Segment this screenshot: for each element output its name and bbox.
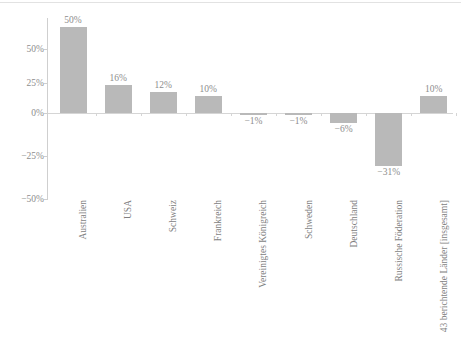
- y-tick-label: −50%: [8, 194, 44, 204]
- x-tick-mark: [456, 113, 457, 116]
- bar[interactable]: [240, 113, 267, 115]
- y-tick-mark: [44, 113, 48, 114]
- bar-value-label: 10%: [404, 84, 461, 95]
- bar[interactable]: [150, 92, 177, 113]
- category-label-text: Deutschland: [349, 200, 360, 248]
- y-tick-label: 50%: [8, 44, 44, 54]
- y-tick-label: 25%: [8, 78, 44, 88]
- x-tick-mark: [321, 113, 322, 116]
- category-label-text: Frankreich: [213, 200, 224, 241]
- y-tick-mark: [44, 83, 48, 84]
- x-tick-mark: [186, 113, 187, 116]
- x-tick-mark: [276, 113, 277, 116]
- category-label-text: Schweiz: [168, 200, 179, 232]
- category-label: Vereinigtes Königreich: [258, 200, 269, 288]
- category-label-text: Vereinigtes Königreich: [258, 200, 269, 288]
- bar-value-label: 50%: [43, 15, 103, 26]
- y-tick-3: −25%: [0, 151, 44, 161]
- category-label: Schweden: [304, 200, 315, 239]
- bar-value-label: −6%: [314, 124, 374, 135]
- x-tick-mark: [411, 113, 412, 116]
- bar[interactable]: [285, 113, 312, 115]
- category-label: Frankreich: [213, 200, 224, 241]
- category-label-text: Australien: [78, 200, 89, 240]
- bar-value-label: 10%: [178, 84, 238, 95]
- bar-value-label: −31%: [359, 167, 419, 178]
- bar[interactable]: [105, 85, 132, 113]
- y-tick-4: −50%: [0, 194, 44, 204]
- category-label-text: Russische Föderation: [394, 200, 405, 282]
- bar[interactable]: [420, 96, 447, 113]
- y-tick-label: 0%: [8, 108, 44, 118]
- bar[interactable]: [60, 27, 87, 113]
- y-tick-label: −25%: [8, 151, 44, 161]
- bar-chart: 50% 25% 0% −25% −50% 50%16%12%10%−1%−1%−…: [0, 0, 461, 363]
- y-axis-line: [47, 18, 48, 200]
- x-tick-mark: [366, 113, 367, 116]
- y-tick-1: 25%: [0, 78, 44, 88]
- category-label-text: 43 berichtende Länder [insgesamt]: [439, 200, 450, 332]
- category-label: Schweiz: [168, 200, 179, 232]
- y-tick-mark: [44, 199, 48, 200]
- bar[interactable]: [375, 113, 402, 166]
- x-tick-mark: [96, 113, 97, 116]
- x-tick-mark: [141, 113, 142, 116]
- category-label: Australien: [78, 200, 89, 240]
- category-label: 43 berichtende Länder [insgesamt]: [439, 200, 450, 332]
- y-tick-2: 0%: [0, 108, 44, 118]
- bar[interactable]: [330, 113, 357, 123]
- category-label: Deutschland: [349, 200, 360, 248]
- y-tick-mark: [44, 49, 48, 50]
- category-label: USA: [123, 200, 134, 219]
- category-label-text: Schweden: [304, 200, 315, 239]
- x-tick-mark: [231, 113, 232, 116]
- y-tick-0: 50%: [0, 44, 44, 54]
- bar[interactable]: [195, 96, 222, 113]
- y-tick-mark: [44, 156, 48, 157]
- category-label-text: USA: [123, 200, 134, 219]
- category-label: Russische Föderation: [394, 200, 405, 282]
